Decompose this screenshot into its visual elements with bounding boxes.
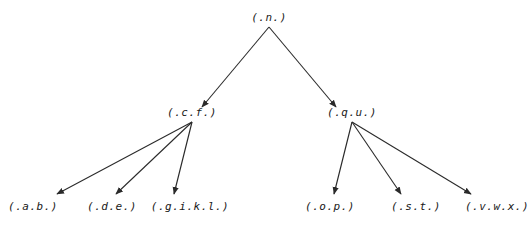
edge-cf-to-gikl — [174, 122, 192, 194]
node-ab: (.a.b.) — [8, 201, 58, 213]
edge-cf-to-ab — [57, 122, 192, 194]
node-gikl: (.g.i.k.l.) — [151, 201, 229, 213]
node-cf: (.c.f.) — [167, 107, 217, 119]
tree-edges — [0, 0, 531, 225]
edge-qu-to-vwx — [352, 122, 471, 194]
edge-n-to-cf — [202, 27, 269, 107]
node-vwx: (.v.w.x.) — [465, 201, 529, 213]
node-root-n: (.n.) — [251, 12, 287, 24]
edge-cf-to-de — [116, 122, 192, 194]
edge-n-to-qu — [269, 27, 336, 107]
node-op: (.o.p.) — [305, 201, 355, 213]
tree-diagram: (.n.) (.c.f.) (.q.u.) (.a.b.) (.d.e.) (.… — [0, 0, 531, 225]
node-qu: (.q.u.) — [327, 107, 377, 119]
edge-qu-to-st — [352, 122, 401, 194]
node-de: (.d.e.) — [87, 201, 137, 213]
node-st: (.s.t.) — [391, 201, 441, 213]
edge-qu-to-op — [334, 122, 352, 194]
